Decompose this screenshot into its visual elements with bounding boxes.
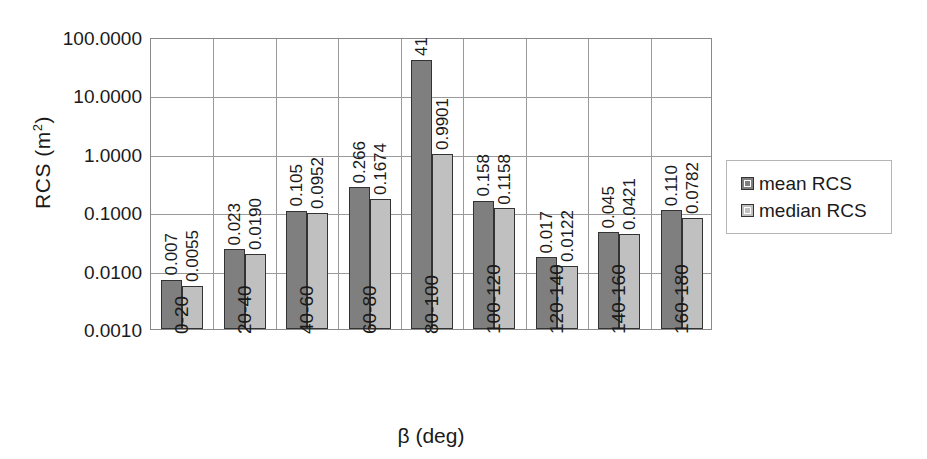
legend-label: median RCS <box>759 201 867 220</box>
bar-value-label: 0.1674 <box>372 143 389 195</box>
x-axis-tick-label: 140-160 <box>609 264 628 334</box>
bar-value-label: 0.007 <box>163 233 180 276</box>
x-axis-tick-labels: 0-2020-4040-6060-8080-100100-120120-1401… <box>150 334 712 430</box>
x-axis-tick-label: 40-60 <box>297 285 316 334</box>
y-axis-tick-label: 0.0010 <box>84 321 142 340</box>
legend: mean RCSmedian RCS <box>726 160 892 234</box>
bar-value-label: 0.9901 <box>434 98 451 150</box>
y-axis-tick-labels: 100.000010.00001.00000.10000.01000.0010 <box>44 38 148 330</box>
bar-value-label: 0.158 <box>475 154 492 197</box>
y-axis-tick-label: 100.0000 <box>63 29 142 48</box>
y-axis-tick-label: 0.0100 <box>84 262 142 281</box>
bar-value-label: 0.1158 <box>496 154 513 205</box>
y-axis-tick-label: 1.0000 <box>84 145 142 164</box>
legend-item[interactable]: median RCS <box>727 197 891 224</box>
y-axis-tick-label: 0.1000 <box>84 204 142 223</box>
bar-value-label: 0.0122 <box>559 210 576 262</box>
rcs-bar-chart: RCS (m2) 100.000010.00001.00000.10000.01… <box>0 0 927 459</box>
bar-value-label: 0.017 <box>538 211 555 254</box>
legend-label: mean RCS <box>759 174 852 193</box>
bar-value-label: 0.105 <box>288 164 305 207</box>
y-axis-title-exponent: 2 <box>30 124 45 132</box>
x-axis-tick-label: 160-180 <box>672 264 691 334</box>
bar-value-label: 0.0782 <box>684 162 701 214</box>
bar-value-label: 0.110 <box>663 165 680 206</box>
bar-value-label: 0.0055 <box>184 230 201 282</box>
bar-value-label: 0.0421 <box>621 178 638 230</box>
x-axis-tick-label: 60-80 <box>360 285 379 334</box>
bar-value-label: 41 <box>413 37 430 56</box>
legend-swatch-icon <box>741 177 754 190</box>
bar-value-label: 0.0190 <box>247 198 264 250</box>
x-axis-tick-label: 80-100 <box>422 275 441 334</box>
bar-value-label: 0.266 <box>351 141 368 184</box>
y-axis-tick-label: 10.0000 <box>73 87 142 106</box>
legend-swatch-icon <box>741 204 754 217</box>
x-axis-title: β (deg) <box>150 424 712 448</box>
bar-value-label: 0.045 <box>600 186 617 229</box>
bar-value-label: 0.023 <box>226 203 243 246</box>
bar-value-label: 0.0952 <box>309 157 326 209</box>
x-axis-tick-label: 0-20 <box>172 296 191 334</box>
legend-item[interactable]: mean RCS <box>727 170 891 197</box>
x-axis-tick-label: 120-140 <box>547 264 566 334</box>
x-axis-tick-label: 100-120 <box>484 264 503 334</box>
x-axis-tick-label: 20-40 <box>235 285 254 334</box>
bar-group: 0.0070.0055 <box>151 39 213 329</box>
